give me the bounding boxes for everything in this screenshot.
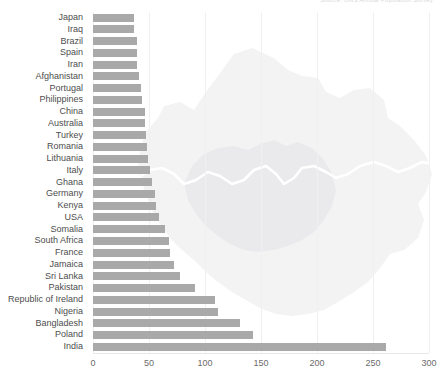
bar <box>93 249 170 257</box>
y-axis-label: Somalia <box>50 224 83 236</box>
bar-chart: Source: ONS Annual Population Survey Jap… <box>0 0 439 381</box>
bar <box>93 225 165 233</box>
bar <box>93 202 156 210</box>
x-axis-tick-label: 0 <box>90 358 95 368</box>
bars-container <box>93 12 429 353</box>
x-axis-tick-label: 150 <box>253 358 268 368</box>
bar <box>93 308 218 316</box>
y-axis-label: Sri Lanka <box>45 271 83 283</box>
y-axis-label: Iraq <box>67 24 83 36</box>
y-axis-label: Lithuania <box>46 153 83 165</box>
bar <box>93 284 195 292</box>
bar <box>93 49 137 57</box>
y-axis-label: Afghanistan <box>35 71 83 83</box>
x-axis-tick-label: 250 <box>365 358 380 368</box>
bar <box>93 37 137 45</box>
y-axis-label: Ghana <box>56 177 83 189</box>
x-axis-tick-label: 200 <box>309 358 324 368</box>
y-axis-label: Philippines <box>39 94 83 106</box>
y-axis-label: Brazil <box>60 36 83 48</box>
y-axis-label: Kenya <box>57 200 83 212</box>
gridline-300 <box>429 12 430 353</box>
x-axis-tick-label: 50 <box>144 358 154 368</box>
y-axis-label: Poland <box>55 329 83 341</box>
y-axis-label: Jamaica <box>49 259 83 271</box>
y-axis-label: Romania <box>47 141 83 153</box>
bar <box>93 108 145 116</box>
x-axis-tick-label: 100 <box>197 358 212 368</box>
y-axis-label: Germany <box>46 188 83 200</box>
bar <box>93 72 139 80</box>
y-axis-label: Pakistan <box>48 282 83 294</box>
bar <box>93 61 137 69</box>
y-axis-label: USA <box>64 212 83 224</box>
bar <box>93 131 146 139</box>
bar <box>93 261 174 269</box>
bar <box>93 343 386 351</box>
bar <box>93 143 147 151</box>
bar <box>93 96 142 104</box>
y-axis-label: South Africa <box>34 235 83 247</box>
bar <box>93 178 152 186</box>
y-axis-label: Italy <box>66 165 83 177</box>
x-axis-tick-label: 300 <box>421 358 436 368</box>
y-axis-label: Japan <box>58 12 83 24</box>
y-axis-label: Nigeria <box>54 306 83 318</box>
bar <box>93 155 148 163</box>
bar <box>93 272 180 280</box>
y-axis-label: Australia <box>48 118 83 130</box>
bar <box>93 331 253 339</box>
y-axis-label: Turkey <box>56 130 83 142</box>
y-axis-label: Spain <box>60 47 83 59</box>
bar <box>93 190 155 198</box>
y-axis-label: France <box>55 247 83 259</box>
bar <box>93 213 159 221</box>
bar <box>93 84 141 92</box>
chart-source-note: Source: ONS Annual Population Survey <box>320 0 433 4</box>
bar <box>93 166 150 174</box>
y-axis-label: India <box>63 341 83 353</box>
bar <box>93 237 169 245</box>
y-axis-label: China <box>59 106 83 118</box>
y-axis-label: Portugal <box>49 83 83 95</box>
bar <box>93 319 240 327</box>
y-axis-labels: JapanIraqBrazilSpainIranAfghanistanPortu… <box>0 12 88 353</box>
bar <box>93 119 145 127</box>
bar <box>93 14 134 22</box>
x-axis-line <box>93 353 429 354</box>
y-axis-label: Iran <box>67 59 83 71</box>
bar <box>93 25 134 33</box>
y-axis-label: Republic of Ireland <box>8 294 83 306</box>
bar <box>93 296 215 304</box>
y-axis-label: Bangladesh <box>35 318 83 330</box>
